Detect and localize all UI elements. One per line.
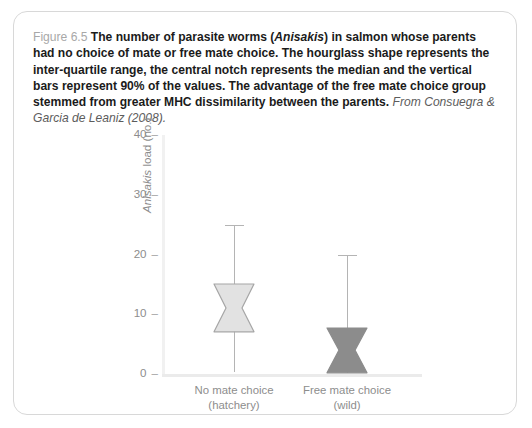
box-shape-0 [212, 282, 256, 334]
y-tick-0: 0– [98, 366, 158, 379]
y-tick-40: 40– [98, 127, 158, 140]
whisker-cap-top-0 [225, 225, 244, 226]
plot-area: Anisakis load (no.) 0–10–20–30–40– No ma… [162, 135, 422, 377]
y-tick-10: 10– [98, 306, 158, 319]
whisker-cap-top-1 [338, 255, 357, 256]
y-axis-line [162, 135, 165, 377]
y-tick-30: 30– [98, 187, 158, 200]
figure-number: Figure 6.5 [33, 30, 87, 44]
x-cat-line1: Free mate choice [272, 383, 422, 398]
figure-panel: Figure 6.5 The number of parasite worms … [13, 11, 517, 415]
x-category-label-1: Free mate choice(wild) [272, 383, 422, 413]
caption-species-name: Anisakis [274, 30, 324, 44]
y-tick-20: 20– [98, 247, 158, 260]
x-axis-line [162, 374, 422, 377]
box-shape-1 [325, 326, 369, 375]
y-axis-label-rest: load (no.) [140, 118, 153, 170]
x-cat-line2: (wild) [272, 398, 422, 413]
box-plot-chart: Anisakis load (no.) 0–10–20–30–40– No ma… [14, 112, 518, 412]
caption-text-part1: The number of parasite worms ( [91, 30, 274, 44]
